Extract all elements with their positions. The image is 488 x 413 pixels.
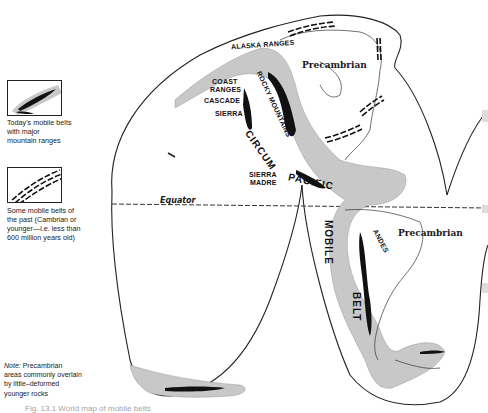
- legend-swatch-modern-belts: [7, 80, 62, 116]
- legend-line: the past (Cambrian or: [7, 215, 107, 224]
- label-sierra: SIERRA: [215, 110, 243, 117]
- note-prefix: Note:: [4, 362, 21, 369]
- legend-line: 600 million years old): [7, 233, 107, 242]
- note-line: Precambrian: [23, 362, 63, 369]
- note-line: younger rocks: [4, 389, 99, 398]
- label-coast-ranges-2: RANGES: [210, 86, 241, 93]
- label-precambrian-south: Precambrian: [398, 228, 463, 238]
- pacific-island: [168, 153, 175, 157]
- legend-line: younger—i.e. less than: [7, 224, 107, 233]
- legend-line: with major: [7, 127, 107, 136]
- legend-label-modern-belts: Today's mobile belts with major mountain…: [7, 118, 107, 145]
- note-line: by little–deformed: [4, 379, 99, 388]
- label-sierra-madre-2: MADRE: [250, 179, 277, 186]
- label-belt: BELT: [351, 292, 362, 321]
- figure-caption: Fig. 13.1 World map of mobile belts: [25, 404, 151, 413]
- legend-line: Some mobile belts of: [7, 206, 107, 215]
- label-cascade: CASCADE: [204, 97, 240, 104]
- label-equator: Equator: [160, 196, 196, 205]
- label-precambrian-north: Precambrian: [302, 60, 367, 70]
- legend-line: Today's mobile belts: [7, 118, 107, 127]
- note-line: areas commonly overlain: [4, 370, 99, 379]
- legend-label-past-belts: Some mobile belts of the past (Cambrian …: [7, 206, 107, 242]
- legend-swatch-past-belts: [7, 167, 62, 203]
- note: Note: Precambrian areas commonly overlai…: [4, 361, 99, 398]
- label-coast-ranges-1: COAST: [212, 78, 238, 85]
- label-sierra-madre-1: SIERRA: [249, 171, 277, 178]
- legend-line: mountain ranges: [7, 136, 107, 145]
- label-mobile: MOBILE: [323, 220, 334, 265]
